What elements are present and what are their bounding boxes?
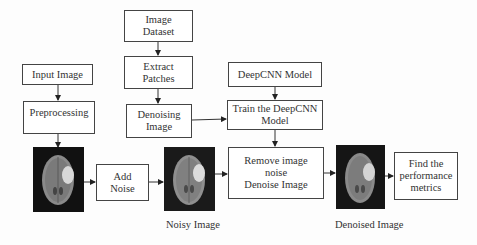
- preprocessing-box: Preprocessing: [23, 101, 95, 134]
- remove-noise-label-line2: noise: [265, 167, 287, 179]
- input-image-box: Input Image: [22, 64, 93, 85]
- extract-patches-box: Extract Patches: [124, 56, 193, 89]
- train-model-label-line2: Model: [261, 115, 288, 127]
- image-dataset-box: Image Dataset: [124, 10, 193, 42]
- find-metrics-box: Find the performance metrics: [394, 152, 458, 200]
- noisy-brain-image: [164, 147, 215, 211]
- original-brain-image: [33, 147, 84, 212]
- deepcnn-model-box: DeepCNN Model: [228, 62, 322, 87]
- remove-noise-box: Remove image noise Denoise Image: [228, 147, 324, 199]
- remove-noise-label-line1: Remove image: [244, 155, 307, 167]
- image-dataset-label-line2: Dataset: [143, 26, 175, 38]
- denoising-image-label-line2: Image: [146, 121, 172, 133]
- noisy-image-caption: Noisy Image: [166, 219, 220, 230]
- extract-patches-label-line1: Extract: [143, 61, 173, 73]
- input-image-label: Input Image: [32, 69, 83, 81]
- train-model-box: Train the DeepCNN Model: [227, 100, 323, 130]
- denoising-image-box: Denoising Image: [126, 104, 192, 138]
- train-model-label-line1: Train the DeepCNN: [233, 103, 318, 115]
- deepcnn-model-label: DeepCNN Model: [238, 69, 312, 81]
- find-metrics-label-line3: metrics: [411, 182, 442, 194]
- denoised-brain-image: [336, 145, 385, 209]
- find-metrics-label-line2: performance: [399, 170, 452, 182]
- add-noise-box: Add Noise: [96, 164, 149, 201]
- image-dataset-label-line1: Image: [145, 14, 171, 26]
- denoising-image-label-line1: Denoising: [137, 109, 180, 121]
- brain-mri-icon: [336, 145, 385, 209]
- add-noise-label-line2: Noise: [110, 183, 135, 195]
- flowchart-canvas: Image Dataset Extract Patches Denoising …: [0, 0, 477, 245]
- extract-patches-label-line2: Patches: [142, 73, 174, 85]
- denoised-image-caption: Denoised Image: [335, 219, 404, 230]
- add-noise-label-line1: Add: [113, 171, 131, 183]
- brain-mri-icon: [33, 147, 84, 212]
- brain-mri-icon: [164, 147, 215, 211]
- remove-noise-label-line3: Denoise Image: [244, 179, 307, 191]
- find-metrics-label-line1: Find the: [409, 158, 444, 170]
- preprocessing-label: Preprocessing: [30, 107, 89, 119]
